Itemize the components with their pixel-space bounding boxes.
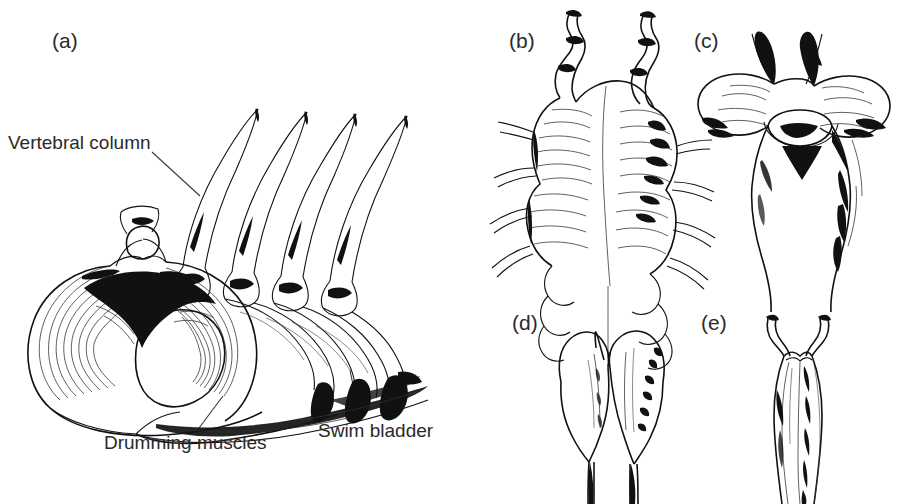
panel-letter-c: (c) bbox=[694, 30, 719, 51]
panel-letter-d: (d) bbox=[512, 312, 538, 333]
label-vertebral-column: Vertebral column bbox=[8, 133, 151, 152]
label-drumming-muscles: Drumming muscles bbox=[104, 433, 267, 452]
panel-letter-e: (e) bbox=[701, 312, 727, 333]
panel-letter-a: (a) bbox=[52, 30, 78, 51]
figure-canvas bbox=[0, 0, 901, 504]
figure-background bbox=[0, 0, 901, 504]
label-swim-bladder: Swim bladder bbox=[318, 421, 433, 440]
panel-letter-b: (b) bbox=[509, 30, 535, 51]
